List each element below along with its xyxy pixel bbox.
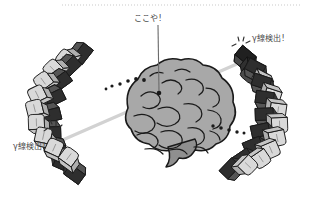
brain-illustration — [126, 59, 236, 167]
figure-canvas: ここや! γ線検出! γ線検出! — [0, 0, 318, 208]
sparkle-icon-right — [232, 37, 250, 46]
detector-left-label: γ線検出! — [13, 143, 46, 151]
detector-arc-left — [25, 35, 94, 185]
pet-scanner-diagram — [0, 0, 318, 208]
detector-right-label: γ線検出! — [252, 35, 285, 43]
source-callout-label: ここや! — [134, 15, 162, 23]
